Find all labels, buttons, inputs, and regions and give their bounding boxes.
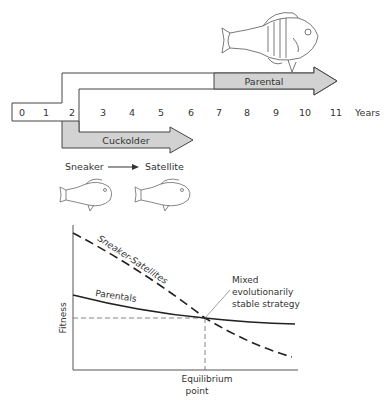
year-10: 10 bbox=[299, 107, 311, 118]
sneaker-fish-icon bbox=[60, 179, 112, 211]
year-8: 8 bbox=[244, 107, 250, 118]
annotation-line-2: evolutionarily bbox=[232, 287, 294, 297]
year-5: 5 bbox=[158, 107, 164, 118]
x-axis-label-line-1: Equilibrium bbox=[182, 374, 233, 384]
satellite-fish-icon bbox=[135, 179, 190, 211]
sneaker-satellites-label: Sneaker-Satellites bbox=[96, 233, 170, 286]
year-timeline: 0 1 2 3 4 5 6 7 8 9 10 11 Years bbox=[12, 103, 380, 121]
fitness-chart: Sneaker-Satellites Parentals Mixed evolu… bbox=[58, 225, 301, 396]
parental-arrow: Parental bbox=[62, 67, 337, 132]
annotation-line-1: Mixed bbox=[232, 275, 259, 285]
year-9: 9 bbox=[273, 107, 279, 118]
diagram-canvas: Parental 0 1 2 3 4 5 6 7 8 9 10 11 Years… bbox=[0, 0, 389, 404]
year-0: 0 bbox=[19, 107, 25, 118]
parental-fish-icon bbox=[222, 13, 318, 72]
parental-label: Parental bbox=[245, 76, 284, 87]
year-2: 2 bbox=[69, 107, 75, 118]
year-1: 1 bbox=[43, 107, 49, 118]
year-3: 3 bbox=[100, 107, 106, 118]
sneaker-label: Sneaker bbox=[65, 161, 104, 172]
annotation-line-3: stable strategy bbox=[232, 299, 301, 309]
years-unit-label: Years bbox=[354, 107, 380, 118]
year-7: 7 bbox=[216, 107, 222, 118]
cuckolder-label: Cuckolder bbox=[102, 135, 149, 146]
cuckolder-arrow: Cuckolder bbox=[62, 121, 193, 153]
year-4: 4 bbox=[129, 107, 135, 118]
arrow-right-icon bbox=[132, 164, 139, 170]
annotation-leader bbox=[205, 290, 230, 318]
year-6: 6 bbox=[188, 107, 194, 118]
satellite-label: Satellite bbox=[145, 161, 184, 172]
x-axis-label-line-2: point bbox=[186, 386, 209, 396]
year-11: 11 bbox=[330, 107, 342, 118]
sneaker-satellite-transition: Sneaker Satellite bbox=[65, 161, 184, 172]
y-axis-label: Fitness bbox=[58, 302, 68, 333]
